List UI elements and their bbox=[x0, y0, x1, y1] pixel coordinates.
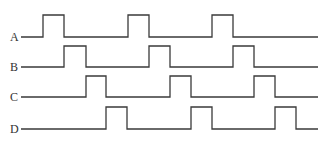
signal-c-label: C bbox=[10, 90, 18, 104]
signal-c-waveform bbox=[21, 76, 318, 97]
signal-b: B bbox=[10, 46, 318, 74]
signal-b-waveform bbox=[21, 46, 318, 67]
timing-diagram: A B C D bbox=[0, 0, 329, 142]
signal-d-label: D bbox=[10, 122, 19, 136]
signal-a: A bbox=[10, 15, 318, 44]
signal-a-label: A bbox=[10, 30, 19, 44]
signal-d-waveform bbox=[21, 107, 318, 129]
signal-d: D bbox=[10, 107, 318, 136]
signal-b-label: B bbox=[10, 60, 18, 74]
signal-a-waveform bbox=[21, 15, 318, 37]
signal-c: C bbox=[10, 76, 318, 104]
